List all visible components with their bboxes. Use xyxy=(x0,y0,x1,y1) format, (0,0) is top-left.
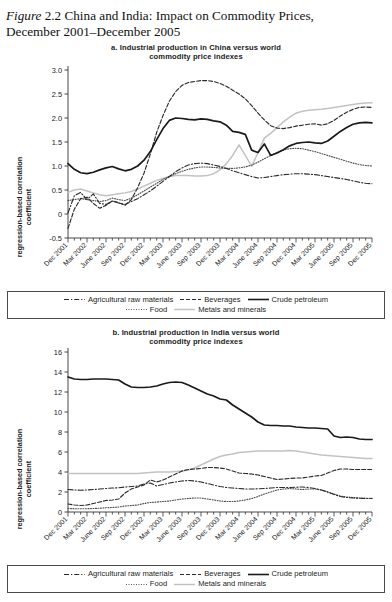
panel-a-legend: Agricultural raw materials Beverages Cru… xyxy=(7,291,385,319)
legend-label: Beverages xyxy=(204,295,240,305)
chart-panel-a: a. Industrial production in China versus… xyxy=(0,43,392,290)
figure-label: Figure xyxy=(6,8,41,23)
panel-b-legend: Agricultural raw materials Beverages Cru… xyxy=(7,565,385,593)
y-tick-label: -0.5 xyxy=(49,233,62,242)
legend-item-agricultural-raw-materials[interactable]: Agricultural raw materials xyxy=(64,295,173,305)
y-tick-label: 3.0 xyxy=(52,65,62,74)
y-tick-label: 14 xyxy=(54,368,62,377)
light-solid-line-icon xyxy=(174,306,195,313)
figure-caption-line2: December 2001–December 2005 xyxy=(6,24,180,39)
y-tick-label: 6 xyxy=(58,448,62,457)
series-line-agricultural-raw-materials xyxy=(68,481,372,499)
dashdot-line-icon xyxy=(64,571,85,578)
panel-a-title: a. Industrial production in China versus… xyxy=(0,43,392,62)
series-line-crude-petroleum xyxy=(68,118,372,174)
panel-a-svg: -0.500.51.01.52.02.53.0Dec 2001Mar 2002J… xyxy=(0,62,392,290)
solid-line-icon xyxy=(248,296,269,303)
panel-a-plot-area: regression-based correlation coefficient… xyxy=(0,62,392,290)
y-tick-label: 0 xyxy=(58,209,62,218)
y-tick-label: 1.0 xyxy=(52,161,62,170)
panel-a-legend-row-1: Agricultural raw materials Beverages Cru… xyxy=(10,295,382,305)
legend-item-food[interactable]: Food xyxy=(126,579,167,589)
figure-number: 2.2 xyxy=(45,8,61,23)
y-tick-label: 2.0 xyxy=(52,113,62,122)
dotted-line-icon xyxy=(126,581,147,588)
legend-item-agricultural-raw-materials[interactable]: Agricultural raw materials xyxy=(64,569,173,579)
solid-line-icon xyxy=(248,571,269,578)
dotted-line-icon xyxy=(126,306,147,313)
legend-item-metals-and-minerals[interactable]: Metals and minerals xyxy=(174,579,266,589)
legend-item-metals-and-minerals[interactable]: Metals and minerals xyxy=(174,305,266,315)
series-line-metals-and-minerals xyxy=(68,102,372,195)
figure-caption-line1: China and India: Impact on Commodity Pri… xyxy=(64,8,313,23)
light-solid-line-icon xyxy=(174,581,195,588)
legend-item-beverages[interactable]: Beverages xyxy=(180,295,240,305)
y-tick-label: 16 xyxy=(54,348,62,357)
panel-b-title-line1: b. Industrial production in India versus… xyxy=(0,328,392,337)
panel-b-legend-row-1: Agricultural raw materials Beverages Cru… xyxy=(10,569,382,579)
panel-a-title-line1: a. Industrial production in China versus… xyxy=(0,43,392,52)
panel-a-title-line2: commodity price indexes xyxy=(0,52,392,61)
panel-a-y-axis-label-line2: coefficient xyxy=(25,122,34,292)
panel-a-legend-row-2: Food Metals and minerals xyxy=(10,305,382,315)
y-tick-label: 2.5 xyxy=(52,89,62,98)
dashed-line-icon xyxy=(180,571,201,578)
panel-b-legend-row-2: Food Metals and minerals xyxy=(10,579,382,589)
legend-item-crude-petroleum[interactable]: Crude petroleum xyxy=(248,295,329,305)
legend-label: Crude petroleum xyxy=(272,295,329,305)
series-line-crude-petroleum xyxy=(68,377,372,440)
legend-label: Beverages xyxy=(204,569,240,579)
panel-b-title-line2: commodity price indexes xyxy=(0,337,392,346)
y-tick-label: 2 xyxy=(58,488,62,497)
y-tick-label: 8 xyxy=(58,428,62,437)
legend-item-crude-petroleum[interactable]: Crude petroleum xyxy=(248,569,329,579)
legend-label: Crude petroleum xyxy=(272,569,329,579)
panel-a-y-axis-label: regression-based correlation coefficient xyxy=(16,122,33,292)
y-tick-label: 1.5 xyxy=(52,137,62,146)
legend-label: Agricultural raw materials xyxy=(88,295,173,305)
legend-label: Agricultural raw materials xyxy=(88,569,173,579)
figure-caption: Figure 2.2 China and India: Impact on Co… xyxy=(0,0,392,39)
legend-label: Metals and minerals xyxy=(198,305,266,315)
y-tick-label: 10 xyxy=(54,408,62,417)
chart-panel-b: b. Industrial production in India versus… xyxy=(0,328,392,565)
series-line-metals-and-minerals xyxy=(68,451,372,474)
legend-item-beverages[interactable]: Beverages xyxy=(180,569,240,579)
y-tick-label: 0 xyxy=(58,508,62,517)
dashdot-line-icon xyxy=(64,296,85,303)
y-tick-label: 12 xyxy=(54,388,62,397)
legend-item-food[interactable]: Food xyxy=(126,305,167,315)
panel-b-plot-area: regression-based correlation coefficient… xyxy=(0,346,392,564)
panel-b-svg: 0246810121416Dec 2001Mar 2002June 2002Se… xyxy=(0,346,392,564)
legend-label: Food xyxy=(150,579,167,589)
series-line-food xyxy=(68,148,372,201)
series-line-beverages xyxy=(68,80,372,228)
y-tick-label: 0.5 xyxy=(52,185,62,194)
dashed-line-icon xyxy=(180,296,201,303)
panel-b-y-axis-label: regression-based correlation coefficient xyxy=(16,394,33,564)
panel-b-y-axis-label-line2: coefficient xyxy=(25,394,34,564)
y-tick-label: 4 xyxy=(58,468,62,477)
panel-b-title: b. Industrial production in India versus… xyxy=(0,328,392,347)
legend-label: Food xyxy=(150,305,167,315)
legend-label: Metals and minerals xyxy=(198,579,266,589)
